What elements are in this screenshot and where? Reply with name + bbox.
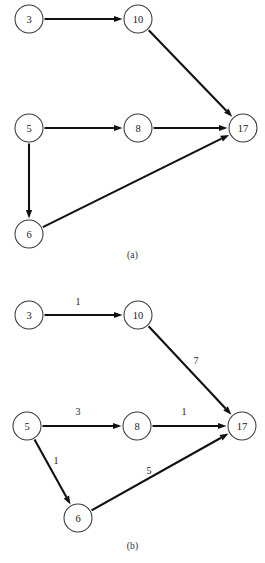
edge-arrowhead [26, 210, 32, 219]
graph-edge [43, 135, 229, 227]
graph-edge [149, 326, 232, 414]
node-label: 6 [26, 229, 31, 240]
node-label: 10 [133, 14, 144, 25]
edge-arrowhead [220, 434, 229, 441]
graph-edge [45, 125, 123, 131]
graph-node[interactable]: 5 [13, 412, 41, 440]
edge-weight-label: 5 [147, 465, 152, 476]
graph-node[interactable]: 6 [64, 504, 92, 532]
edge-weight-label: 1 [54, 455, 59, 466]
node-label: 10 [133, 310, 144, 321]
graph-node[interactable]: 17 [229, 114, 257, 142]
node-label: 3 [26, 310, 31, 321]
graph-edge [92, 434, 229, 511]
graph-svg-a: 31058176 [0, 0, 265, 250]
graph-edge [154, 125, 228, 131]
node-label: 8 [135, 123, 140, 134]
node-label: 3 [26, 14, 31, 25]
graph-edge [43, 423, 122, 429]
panel-caption-b: (b) [0, 541, 265, 551]
graph-edge [35, 440, 71, 505]
graph-edge [153, 423, 227, 429]
edge-arrowhead [113, 423, 122, 429]
graph-node[interactable]: 8 [123, 412, 151, 440]
graph-node[interactable]: 10 [124, 301, 152, 329]
edge-arrowhead [114, 16, 123, 22]
graph-edge [45, 312, 123, 318]
edge-line [149, 326, 226, 408]
edge-arrowhead [64, 496, 71, 505]
edge-arrowhead [220, 135, 229, 142]
panel-caption-a: (a) [0, 250, 265, 260]
edge-arrowhead [218, 423, 227, 429]
graph-node[interactable]: 3 [15, 301, 43, 329]
graph-node[interactable]: 17 [228, 412, 256, 440]
node-label: 6 [75, 513, 80, 524]
graph-panel-a: 31058176 [0, 0, 265, 280]
graph-node[interactable]: 5 [15, 114, 43, 142]
node-label: 8 [134, 421, 139, 432]
graph-edge [45, 16, 123, 22]
graph-panel-b: 17311531058176 [0, 280, 265, 563]
node-label: 5 [26, 123, 31, 134]
edge-line [149, 30, 227, 111]
edge-line [35, 440, 67, 497]
graph-node[interactable]: 3 [15, 5, 43, 33]
edge-weight-label: 3 [76, 406, 81, 417]
edge-arrowhead [114, 312, 123, 318]
edge-arrowhead [114, 125, 123, 131]
graph-svg-b: 17311531058176 [0, 280, 265, 545]
graph-edge [149, 30, 232, 117]
edge-arrowhead [219, 125, 228, 131]
graph-node[interactable]: 8 [124, 114, 152, 142]
edge-weight-label: 1 [182, 406, 187, 417]
node-label: 17 [237, 421, 248, 432]
graph-node[interactable]: 10 [124, 5, 152, 33]
figure-root: 31058176 (a) 17311531058176 (b) [0, 0, 265, 563]
edge-line [43, 139, 222, 227]
edge-line [92, 438, 222, 511]
graph-node[interactable]: 6 [15, 220, 43, 248]
edge-weight-label: 7 [194, 355, 199, 366]
edge-weight-label: 1 [76, 296, 81, 307]
graph-edge [26, 144, 32, 219]
node-label: 17 [238, 123, 249, 134]
node-label: 5 [24, 421, 29, 432]
